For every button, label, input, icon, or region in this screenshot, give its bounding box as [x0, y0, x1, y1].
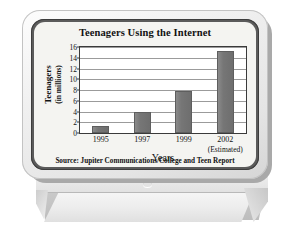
x-axis-tick-label: 1999	[176, 135, 192, 144]
x-axis-tick-year: 1999	[176, 135, 192, 144]
y-axis-tick-mark	[77, 133, 80, 134]
y-axis-tick-label: 2	[73, 118, 77, 127]
y-axis-tick-label: 10	[70, 75, 78, 84]
y-axis-tick-label: 16	[70, 43, 78, 52]
bar	[134, 112, 151, 134]
y-axis-tick-mark	[77, 122, 80, 123]
monitor-stand-front	[44, 192, 254, 222]
y-axis-tick-label: 12	[70, 64, 78, 73]
y-axis-tick-mark	[77, 90, 80, 91]
chart-title: Teenagers Using the Internet	[34, 27, 256, 38]
bar	[217, 51, 234, 133]
plot-area: 02468101214161995199719992002(Estimated)	[79, 46, 247, 134]
plot-area-wrapper: 02468101214161995199719992002(Estimated)	[79, 46, 247, 134]
x-axis-tick-label: 1995	[93, 135, 109, 144]
x-axis-tick-year: 1997	[134, 135, 150, 144]
y-axis-tick-label: 14	[70, 53, 78, 62]
monitor-chart-scene: Teenagers Using the Internet Teenagers (…	[0, 0, 297, 236]
y-axis-label-line2: (in millions)	[54, 65, 63, 104]
y-axis-tick-mark	[77, 100, 80, 101]
bar	[175, 91, 192, 133]
x-axis-tick-label: 1997	[134, 135, 150, 144]
y-axis-tick-label: 6	[73, 96, 77, 105]
y-axis-label: Teenagers (in millions)	[43, 42, 64, 128]
y-axis-label-line1: Teenagers	[43, 65, 53, 104]
x-axis-tick-year: 2002	[217, 135, 233, 144]
x-axis-tick-year: 1995	[93, 135, 109, 144]
y-axis-tick-mark	[77, 111, 80, 112]
y-axis-tick-label: 8	[73, 86, 77, 95]
bar	[92, 126, 109, 133]
source-note: Source: Jupiter Communications/College a…	[34, 157, 256, 165]
monitor-screen: Teenagers Using the Internet Teenagers (…	[34, 22, 256, 167]
gridline	[80, 47, 246, 48]
y-axis-tick-label: 4	[73, 107, 77, 116]
y-axis-tick-label: 0	[73, 129, 77, 138]
